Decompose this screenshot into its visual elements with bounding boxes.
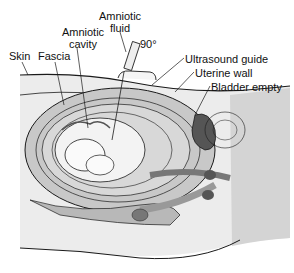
label-bladder-empty: Bladder empty	[211, 81, 282, 93]
syringe	[124, 41, 140, 70]
label-fascia: Fascia	[38, 50, 70, 62]
label-amniotic-fluid-line2: fluid	[95, 22, 145, 34]
label-amniotic-cavity-line2: cavity	[58, 38, 108, 50]
label-skin: Skin	[9, 50, 30, 62]
label-ultrasound-guide: Ultrasound guide	[185, 53, 268, 65]
label-uterine-wall: Uterine wall	[195, 67, 252, 79]
label-angle: 90°	[140, 38, 157, 50]
label-amniotic-fluid-line1: Amniotic	[95, 10, 145, 22]
